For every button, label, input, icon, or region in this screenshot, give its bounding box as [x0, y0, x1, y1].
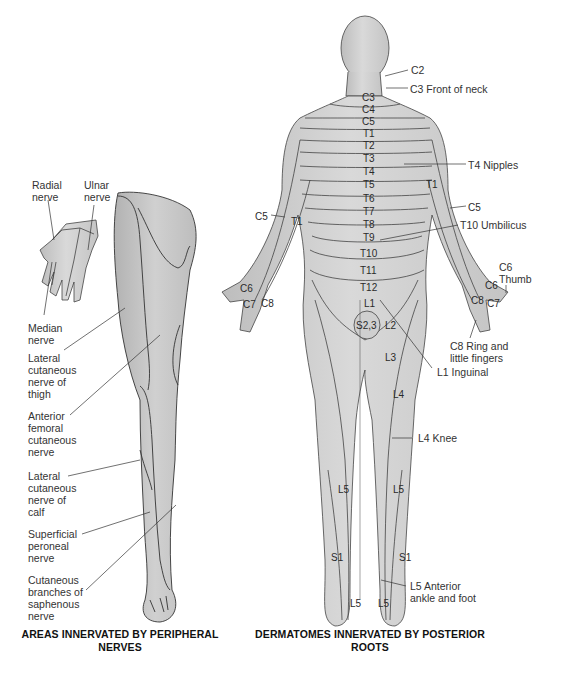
callout-c2: C2: [411, 64, 424, 76]
segment-hand-right-c7: C7: [243, 299, 256, 310]
segment-c3: C3: [362, 92, 375, 103]
label-radial-nerve: Radialnerve: [32, 179, 62, 203]
segment-t5: T5: [363, 179, 375, 190]
segment-l4: L4: [393, 389, 404, 400]
segment-t9: T9: [363, 232, 375, 243]
segment-arm-right-c5: C5: [255, 211, 268, 222]
segment-l5-left: L5: [338, 484, 349, 495]
label-ulnar-nerve: Ulnarnerve: [84, 179, 110, 203]
segment-t8: T8: [363, 219, 375, 230]
segment-hand-left-c7: C7: [487, 298, 500, 309]
segment-l5-right: L5: [393, 484, 404, 495]
caption-dermatomes: DERMATOMES INNERVATED BY POSTERIORROOTS: [250, 628, 490, 654]
segment-arm-left-t1: T1: [426, 179, 438, 190]
segment-t4: T4: [363, 166, 375, 177]
leg-figure: [114, 192, 196, 622]
hand-figure: [40, 220, 98, 302]
segment-l5-foot-left: L5: [350, 598, 361, 609]
callout-t4: T4 Nipples: [468, 159, 518, 171]
segment-arm-right-t1: T1: [291, 216, 303, 227]
segment-l2: L2: [385, 320, 396, 331]
segment-c4: C4: [362, 104, 375, 115]
caption-peripheral-nerves: AREAS INNERVATED BY PERIPHERALNERVES: [10, 628, 230, 654]
segment-arm-left-c5: C5: [468, 202, 481, 213]
callout-c8-fingers: C8 Ring andlittle fingers: [450, 340, 508, 364]
callout-c3: C3 Front of neck: [410, 83, 488, 95]
segment-s23: S2,3: [356, 320, 377, 331]
segment-t11: T11: [360, 265, 377, 276]
segment-hand-right-c8: C8: [261, 298, 274, 309]
label-lateral-cutaneous-nerve-calf: Lateralcutaneous nerve ofcalf: [28, 470, 76, 518]
label-lateral-cutaneous-nerve-thigh: Lateralcutaneous nerve ofthigh: [28, 352, 76, 400]
label-superficial-peroneal-nerve: Superficialperoneal nerve: [28, 528, 77, 564]
label-median-nerve: Mediannerve: [28, 322, 62, 346]
segment-hand-right-c6: C6: [240, 283, 253, 294]
callout-t10: T10 Umbilicus: [460, 219, 527, 231]
segment-hand-left-c8: C8: [471, 295, 484, 306]
segment-l1: L1: [364, 298, 375, 309]
segment-c5: C5: [362, 116, 375, 127]
segment-hand-left-c6: C6: [485, 280, 498, 291]
segment-t1: T1: [363, 128, 375, 139]
segment-t10: T10: [360, 248, 377, 259]
segment-s1-left: S1: [331, 552, 343, 563]
segment-t2: T2: [363, 140, 375, 151]
callout-l4: L4 Knee: [418, 432, 457, 444]
segment-t7: T7: [363, 206, 375, 217]
segment-t3: T3: [363, 153, 375, 164]
callout-l1: L1 Inguinal: [437, 366, 488, 378]
segment-l3: L3: [385, 352, 396, 363]
segment-t6: T6: [363, 193, 375, 204]
segment-s1-right: S1: [399, 552, 411, 563]
callout-l5-ankle: L5 Anteriorankle and foot: [410, 580, 476, 604]
segment-l5-foot-right: L5: [378, 598, 389, 609]
label-anterior-femoral-cutaneous-nerve: Anteriorfemoral cutaneousnerve: [28, 410, 76, 458]
label-saphenous-nerve: Cutaneousbranches of saphenousnerve: [28, 574, 83, 622]
callout-c6-thumb: C6Thumb: [499, 261, 532, 285]
segment-t12: T12: [360, 282, 377, 293]
